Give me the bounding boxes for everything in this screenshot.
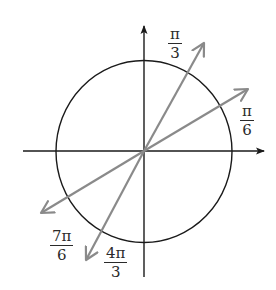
ray-pi-over-6 (144, 89, 248, 151)
label-numerator: π (240, 104, 254, 121)
label-pi-over-3: π 3 (168, 27, 182, 61)
label-numerator: π (168, 27, 182, 44)
label-denominator: 6 (50, 246, 73, 263)
label-numerator: 4π (104, 246, 127, 263)
unit-circle-diagram (0, 0, 276, 290)
label-pi-over-6: π 6 (240, 104, 254, 138)
label-denominator: 3 (104, 263, 127, 280)
label-4pi-over-3: 4π 3 (104, 246, 127, 280)
label-denominator: 6 (240, 121, 254, 138)
label-denominator: 3 (168, 44, 182, 61)
label-numerator: 7π (50, 229, 73, 246)
label-7pi-over-6: 7π 6 (50, 229, 73, 263)
